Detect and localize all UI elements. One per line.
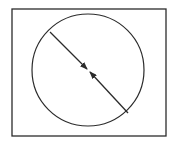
- circle: [32, 14, 144, 126]
- circle-diameter-diagram: [0, 0, 175, 144]
- diameter-arrow-lower: [90, 72, 128, 113]
- diameter-arrow-upper: [50, 32, 87, 69]
- outer-frame: [12, 9, 166, 136]
